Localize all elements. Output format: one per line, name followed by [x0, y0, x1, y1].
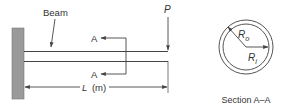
length-label: L (m): [82, 82, 106, 93]
cross-section: Ro Ri Section A–A: [219, 20, 273, 105]
inner-radius-label: Ri: [248, 52, 257, 66]
load-label: P: [164, 4, 171, 15]
length-variable: L: [82, 82, 87, 93]
inner-radius-subscript: i: [255, 57, 257, 66]
section-marker-bottom: A: [91, 69, 98, 80]
length-unit: (m): [92, 82, 106, 93]
section-cut-indicator: A A: [91, 33, 126, 80]
section-marker-top: A: [91, 33, 98, 44]
section-caption: Section A–A: [221, 95, 270, 105]
point-load: P: [164, 4, 171, 93]
inner-radius-symbol: R: [248, 52, 255, 63]
beam: [24, 52, 168, 62]
length-dimension: L (m): [25, 82, 167, 93]
outer-radius-subscript: o: [245, 34, 249, 43]
beam-label: Beam: [43, 7, 68, 18]
beam-leader-arrow: [51, 19, 55, 47]
outer-radius-symbol: R: [238, 29, 245, 40]
diagram-canvas: Beam A A P L (m): [0, 0, 290, 109]
cantilever-beam-diagram: Beam A A P L (m): [0, 0, 290, 109]
fixed-wall-support: [12, 28, 24, 99]
